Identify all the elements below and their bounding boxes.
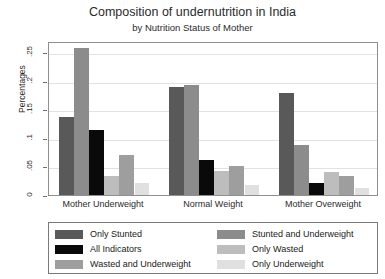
y-axis-tick-label: .2 — [25, 67, 34, 93]
bar — [59, 117, 74, 195]
bar — [89, 130, 104, 195]
bar — [279, 93, 294, 195]
x-axis-category-label: Normal Weight — [158, 199, 268, 209]
legend-swatch — [55, 230, 83, 239]
legend-label: Wasted and Underweight — [90, 259, 191, 269]
x-axis-category-label: Mother Overweight — [268, 199, 378, 209]
legend-label: All Indicators — [90, 244, 142, 254]
bar-series-container — [49, 43, 377, 195]
bar — [294, 145, 309, 195]
legend-item[interactable]: Stunted and Underweight — [217, 227, 354, 241]
bar — [339, 176, 354, 195]
bar — [324, 172, 339, 195]
bar — [245, 185, 260, 195]
legend-item[interactable]: Wasted and Underweight — [55, 257, 191, 271]
chart-title: Composition of undernutrition in India — [0, 5, 385, 19]
bar — [184, 85, 199, 195]
y-axis-tick-mark — [43, 82, 47, 83]
bar — [199, 160, 214, 195]
bar — [214, 171, 229, 195]
legend-swatch — [217, 230, 245, 239]
chart-figure: Composition of undernutrition in India b… — [0, 0, 385, 279]
y-axis-tick-label: .25 — [25, 39, 34, 65]
legend-column-right: Stunted and UnderweightOnly WastedOnly U… — [217, 227, 354, 272]
legend-label: Only Wasted — [252, 244, 303, 254]
chart-subtitle: by Nutrition Status of Mother — [0, 22, 385, 33]
y-axis-tick-label: .05 — [25, 153, 34, 179]
bar — [169, 87, 184, 195]
legend-swatch — [217, 245, 245, 254]
plot-area — [48, 42, 378, 196]
legend-swatch — [55, 260, 83, 269]
legend-column-left: Only StuntedAll IndicatorsWasted and Und… — [55, 227, 191, 272]
y-axis-tick-mark — [43, 139, 47, 140]
bar — [104, 176, 119, 195]
legend-swatch — [55, 245, 83, 254]
legend-item[interactable]: Only Stunted — [55, 227, 191, 241]
x-axis-category-label: Mother Underweight — [48, 199, 158, 209]
bar — [119, 155, 134, 195]
legend-item[interactable]: All Indicators — [55, 242, 191, 256]
y-axis-tick-mark — [43, 196, 47, 197]
legend-label: Only Stunted — [90, 229, 142, 239]
y-axis-tick-mark — [43, 110, 47, 111]
y-axis-tick-label: 0 — [25, 182, 34, 208]
legend-item[interactable]: Only Underweight — [217, 257, 354, 271]
legend-swatch — [217, 260, 245, 269]
bar — [229, 166, 244, 195]
bar — [135, 183, 150, 195]
y-axis-tick-mark — [43, 167, 47, 168]
y-axis-tick-label: .1 — [25, 124, 34, 150]
bar — [309, 183, 324, 195]
bar — [74, 48, 89, 195]
legend-label: Only Underweight — [252, 259, 324, 269]
y-axis-tick-mark — [43, 53, 47, 54]
bar — [355, 188, 370, 195]
legend-item[interactable]: Only Wasted — [217, 242, 354, 256]
y-axis-tick-label: .15 — [25, 96, 34, 122]
legend-label: Stunted and Underweight — [252, 229, 354, 239]
chart-legend: Only StuntedAll IndicatorsWasted and Und… — [48, 222, 378, 274]
